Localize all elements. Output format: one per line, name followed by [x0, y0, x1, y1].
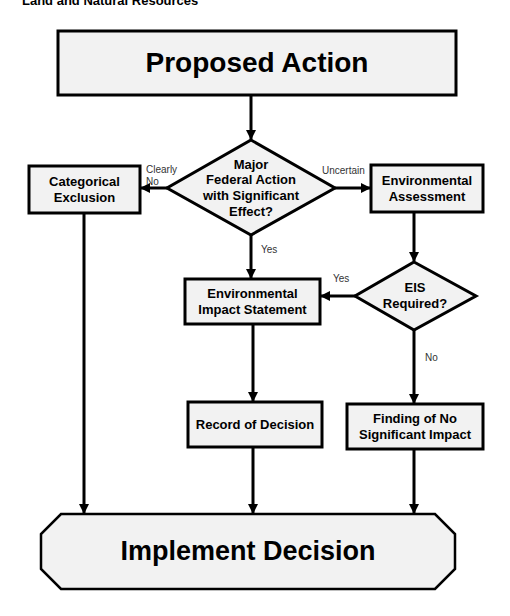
- eis-box-line-1: Environmental: [207, 286, 297, 302]
- edge-label-no-left: No: [146, 176, 177, 188]
- edge-label-no-eis: No: [425, 352, 438, 364]
- edge-label-uncertain: Uncertain: [322, 165, 365, 177]
- edge-label-clearly: Clearly: [146, 164, 177, 176]
- categorical-exclusion-label: Categorical Exclusion: [29, 166, 140, 213]
- categorical-exclusion-line-2: Exclusion: [54, 190, 115, 206]
- implement-decision-label: Implement Decision: [41, 514, 455, 589]
- edge-label-yes-eis: Yes: [333, 273, 349, 285]
- edge-label-clearly-no: Clearly No: [146, 164, 177, 187]
- fonsi-label: Finding of No Significant Impact: [347, 404, 483, 449]
- proposed-action-label: Proposed Action: [58, 31, 456, 95]
- environmental-assessment-label: Environmental Assessment: [371, 165, 483, 212]
- fonsi-line-1: Finding of No: [373, 411, 457, 427]
- environmental-assessment-line-1: Environmental: [382, 173, 472, 189]
- major-federal-action-line-2: Federal Action: [206, 172, 296, 188]
- fonsi-line-2: Significant Impact: [359, 427, 471, 443]
- major-federal-action-label: Major Federal Action with Significant Ef…: [187, 150, 315, 226]
- major-federal-action-line-4: Effect?: [229, 204, 273, 220]
- record-of-decision-label: Record of Decision: [188, 402, 322, 447]
- major-federal-action-line-3: with Significant: [203, 188, 299, 204]
- environmental-assessment-line-2: Assessment: [389, 189, 466, 205]
- categorical-exclusion-line-1: Categorical: [49, 174, 120, 190]
- eis-required-line-1: EIS: [405, 280, 426, 296]
- eis-box-line-2: Impact Statement: [198, 302, 306, 318]
- eis-required-line-2: Required?: [383, 296, 447, 312]
- major-federal-action-line-1: Major: [234, 157, 269, 173]
- environmental-impact-statement-label: Environmental Impact Statement: [185, 279, 320, 324]
- edge-label-yes-major: Yes: [261, 244, 277, 256]
- eis-required-label: EIS Required?: [370, 275, 460, 317]
